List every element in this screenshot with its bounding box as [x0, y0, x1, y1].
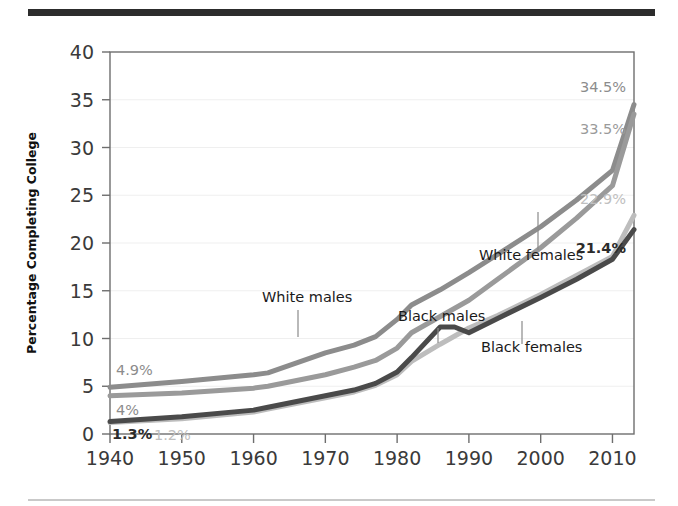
x-tick-label: 1970	[301, 447, 349, 469]
annotation-white-females: White females	[479, 247, 583, 263]
y-tick-label: 15	[70, 280, 94, 302]
end-value-label-black-males: 21.4%	[576, 240, 627, 256]
y-tick-label: 30	[70, 137, 94, 159]
line-chart: 0510152025303540 19401950196019701980199…	[0, 0, 678, 506]
end-value-label-white-females: 33.5%	[580, 121, 626, 137]
annotation-black-females: Black females	[481, 339, 582, 355]
y-tick-label: 0	[82, 423, 94, 445]
end-value-label-black-females: 22.9%	[580, 191, 626, 207]
start-value-label-black-males: 1.3%	[112, 426, 153, 442]
annotation-black-males: Black males	[398, 308, 485, 324]
start-value-label-white-males: 4.9%	[116, 362, 153, 378]
figure-container: 0510152025303540 19401950196019701980199…	[0, 0, 678, 506]
y-axis-title: Percentage Completing College	[24, 132, 39, 354]
series-annotations: White malesBlack malesWhite femalesBlack…	[262, 212, 583, 355]
x-tick-label: 1940	[86, 447, 134, 469]
y-axis-ticks: 0510152025303540	[70, 41, 110, 445]
y-tick-label: 20	[70, 232, 94, 254]
end-value-label-white-males: 34.5%	[580, 79, 626, 95]
bottom-divider-rule	[28, 499, 655, 501]
start-value-label-black-females: 1.2%	[154, 427, 191, 443]
x-tick-label: 1960	[229, 447, 277, 469]
y-tick-label: 35	[70, 89, 94, 111]
y-tick-label: 5	[82, 375, 94, 397]
y-tick-label: 10	[70, 328, 94, 350]
y-tick-label: 40	[70, 41, 94, 63]
y-tick-label: 25	[70, 184, 94, 206]
data-series-lines	[110, 105, 634, 423]
y-axis-title-text: Percentage Completing College	[24, 132, 39, 354]
annotation-white-males: White males	[262, 289, 352, 305]
start-value-label-white-females: 4%	[116, 402, 139, 418]
x-tick-label: 2010	[588, 447, 636, 469]
x-tick-label: 1950	[158, 447, 206, 469]
x-tick-label: 1980	[373, 447, 421, 469]
x-tick-label: 1990	[445, 447, 493, 469]
x-tick-label: 2000	[517, 447, 565, 469]
